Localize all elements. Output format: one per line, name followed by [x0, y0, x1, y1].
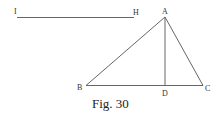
label-d: D [162, 89, 168, 98]
side-ac [165, 17, 203, 86]
label-a: A [162, 7, 168, 16]
label-b: B [77, 83, 82, 92]
side-ab [86, 17, 165, 86]
label-i: I [14, 7, 17, 16]
figure-caption: Fig. 30 [92, 96, 129, 111]
label-h: H [133, 8, 139, 17]
figure-canvas: I H A B C D Fig. 30 [0, 0, 221, 118]
label-c: C [205, 84, 210, 93]
